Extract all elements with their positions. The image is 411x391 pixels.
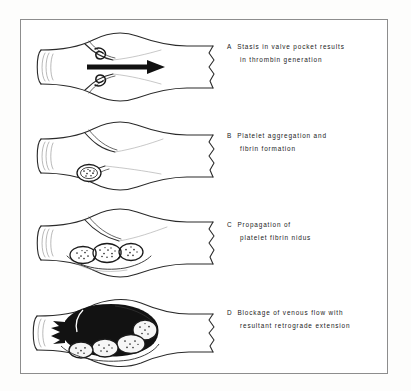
panel-d-letter: D — [227, 309, 232, 316]
thrombus-lobules — [70, 244, 143, 264]
panel-b-caption-line1: Platelet aggregation and — [237, 132, 327, 139]
panel-d-caption: DBlockage of venous flow with resultant … — [227, 306, 387, 332]
panel-c-caption-line1: Propagation of — [237, 221, 290, 228]
panel-a-caption-line1: Stasis in valve pocket results — [237, 43, 345, 50]
panel-c-letter: C — [227, 221, 232, 228]
panel-a-illustration — [27, 22, 227, 110]
panel-a-caption-line2: in thrombin generation — [240, 53, 387, 66]
flow-arrow — [87, 60, 165, 74]
panel-b-letter: B — [227, 132, 232, 139]
panel-d-caption-line1: Blockage of venous flow with — [237, 309, 343, 316]
panel-b-caption: BPlatelet aggregation and fibrin formati… — [227, 129, 387, 155]
panel-d-caption-line2: resultant retrograde extension — [240, 319, 387, 332]
panel-b-caption-line2: fibrin formation — [240, 142, 387, 155]
panel-b-illustration — [27, 111, 227, 199]
panel-b: BPlatelet aggregation and fibrin formati… — [21, 111, 389, 199]
panel-a: AStasis in valve pocket results in throm… — [21, 22, 389, 110]
platelet-nidus — [77, 165, 101, 182]
panel-d-illustration — [27, 288, 227, 376]
panel-c-caption-line2: platelet fibrin nidus — [240, 231, 387, 244]
venous-thrombosis-figure: AStasis in valve pocket results in throm… — [0, 0, 411, 391]
panel-c-illustration — [27, 200, 227, 288]
panel-c: CPropagation of platelet fibrin nidus — [21, 200, 389, 288]
panel-a-caption: AStasis in valve pocket results in throm… — [227, 40, 387, 66]
panel-d: DBlockage of venous flow with resultant … — [21, 288, 389, 376]
panel-c-caption: CPropagation of platelet fibrin nidus — [227, 218, 387, 244]
panel-a-letter: A — [227, 43, 232, 50]
figure-border: AStasis in valve pocket results in throm… — [20, 19, 388, 374]
